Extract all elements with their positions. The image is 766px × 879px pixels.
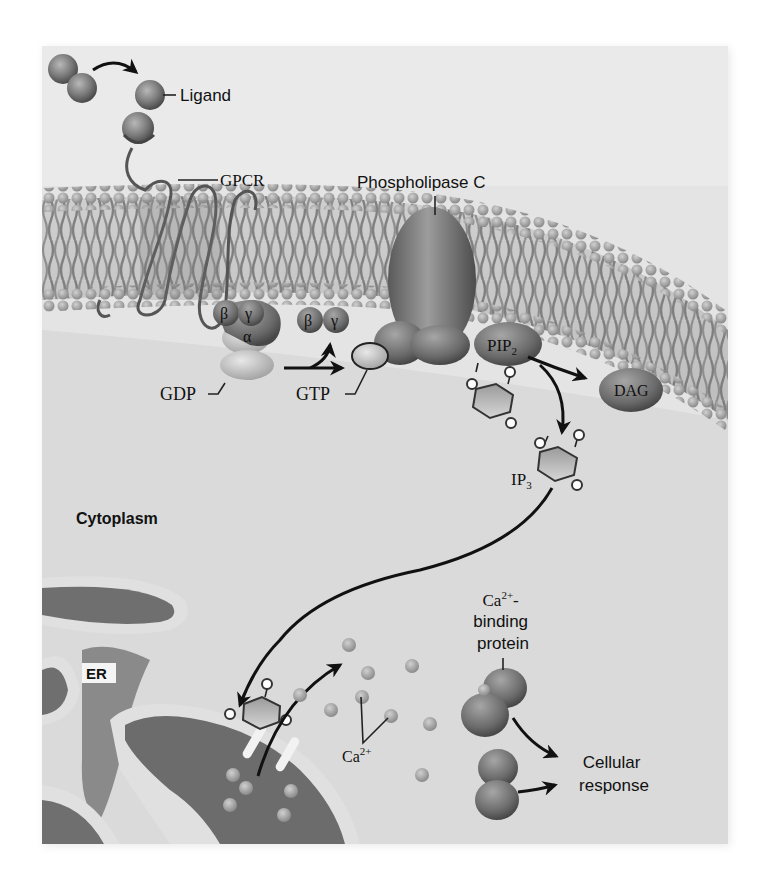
gpcr-signaling-diagram: Ligand GPCR Phospholipase C β γ α β γ GD… — [0, 0, 766, 879]
label-ligand: Ligand — [180, 86, 231, 105]
label-gdp: GDP — [160, 384, 196, 404]
label-gpcr: GPCR — [220, 171, 265, 190]
label-er: ER — [86, 665, 107, 682]
label-beta: β — [220, 305, 228, 323]
label-phospholipase-c: Phospholipase C — [357, 173, 486, 192]
label-gtp: GTP — [296, 384, 330, 404]
label-gamma-free: γ — [330, 312, 338, 330]
label-alpha: α — [243, 328, 252, 345]
label-gamma: γ — [244, 305, 252, 323]
label-beta-free: β — [304, 312, 312, 330]
label-cytoplasm: Cytoplasm — [76, 510, 158, 527]
label-dag: DAG — [614, 382, 649, 399]
